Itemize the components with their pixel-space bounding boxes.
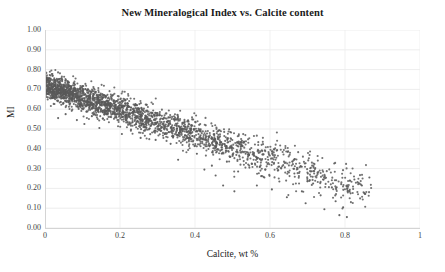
x-tick-label: 0.2 bbox=[115, 231, 125, 240]
y-tick-label: 0.10 bbox=[0, 203, 41, 212]
y-tick-label: 0.40 bbox=[0, 144, 41, 153]
y-tick-label: 0.30 bbox=[0, 164, 41, 173]
x-axis-title: Calcite, wt % bbox=[45, 249, 420, 259]
x-tick-label: 0 bbox=[43, 231, 47, 240]
y-tick-label: 0.20 bbox=[0, 183, 41, 192]
y-tick-label: 0.90 bbox=[0, 45, 41, 54]
y-axis-line bbox=[45, 30, 46, 228]
chart-title: New Mineralogical Index vs. Calcite cont… bbox=[0, 7, 445, 18]
y-tick-label: 1.00 bbox=[0, 25, 41, 34]
scatter-points bbox=[45, 30, 420, 228]
x-tick-label: 0.4 bbox=[190, 231, 200, 240]
y-tick-label: 0.50 bbox=[0, 124, 41, 133]
x-axis-line bbox=[45, 228, 420, 229]
x-tick-label: 0.6 bbox=[265, 231, 275, 240]
plot-area bbox=[45, 30, 420, 228]
y-tick-label: 0.00 bbox=[0, 223, 41, 232]
chart-figure: New Mineralogical Index vs. Calcite cont… bbox=[0, 0, 445, 272]
x-tick-label: 1 bbox=[418, 231, 422, 240]
y-tick-label: 0.70 bbox=[0, 84, 41, 93]
y-tick-label: 0.80 bbox=[0, 65, 41, 74]
x-tick-label: 0.8 bbox=[340, 231, 350, 240]
y-axis-title: MI bbox=[6, 106, 16, 118]
